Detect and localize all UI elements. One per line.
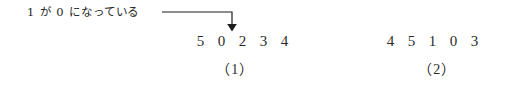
- digit-sequence-2: 4 5 1 0 3: [380, 31, 485, 51]
- digit-cell: 3: [464, 31, 485, 51]
- figure-container: 1 が 0 になっている 5 0 2 3 4 4 5 1 0 3 （1） （2）: [0, 0, 518, 90]
- figure-caption-2: （2）: [418, 60, 457, 80]
- digit-cell: 4: [274, 31, 295, 51]
- digit-cell: 5: [190, 31, 211, 51]
- digit-cell: 1: [422, 31, 443, 51]
- figure-caption-1: （1）: [216, 60, 255, 80]
- annotation-label: 1 が 0 になっている: [27, 4, 139, 20]
- digit-cell: 5: [401, 31, 422, 51]
- digit-cell: 0: [443, 31, 464, 51]
- digit-sequence-1: 5 0 2 3 4: [190, 31, 295, 51]
- digit-cell-highlighted: 0: [211, 31, 232, 51]
- digit-cell: 4: [380, 31, 401, 51]
- digit-cell: 3: [253, 31, 274, 51]
- digit-cell: 2: [232, 31, 253, 51]
